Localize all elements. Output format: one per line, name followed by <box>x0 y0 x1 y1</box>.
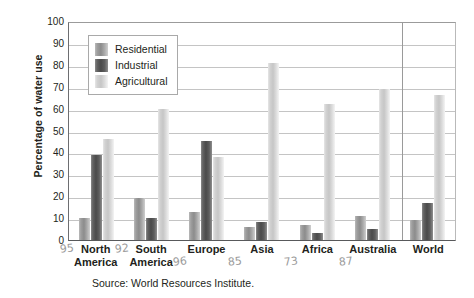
x-label-line: World <box>401 243 456 256</box>
legend-item-industrial: Industrial <box>95 57 168 73</box>
bar-top-cap <box>434 95 445 97</box>
bar-top-cap <box>79 218 90 220</box>
bar-north-america-industrial <box>91 155 102 240</box>
bar-group-europe <box>179 23 234 240</box>
x-label-line: Australia <box>345 243 400 256</box>
y-tick-30: 30 <box>38 170 64 180</box>
bar-group-asia <box>234 23 289 240</box>
legend-swatch-industrial <box>95 59 108 72</box>
bar-top-cap <box>324 104 335 106</box>
bar-top-cap <box>312 233 323 235</box>
bar-asia-industrial <box>256 222 267 240</box>
bar-australia-industrial <box>367 229 378 240</box>
bar-africa-industrial <box>312 233 323 240</box>
bar-top-cap <box>103 139 114 141</box>
x-label-line: Europe <box>179 243 234 256</box>
bar-asia-residential <box>244 227 255 240</box>
bar-top-cap <box>256 222 267 224</box>
legend-label-agricultural: Agricultural <box>115 75 168 88</box>
x-label-asia: Asia85 <box>234 243 289 268</box>
y-tick-70: 70 <box>38 83 64 93</box>
bar-top-cap <box>134 198 145 200</box>
bar-top-cap <box>244 227 255 229</box>
x-label-europe: Europe96 <box>179 243 234 268</box>
bar-north-america-residential <box>79 218 90 240</box>
legend-swatch-residential <box>95 43 108 56</box>
bar-south-america-agricultural <box>158 109 169 240</box>
x-label-australia: Australia87 <box>345 243 400 268</box>
bar-north-america-agricultural <box>103 139 114 240</box>
y-tick-80: 80 <box>38 61 64 71</box>
bar-south-america-residential <box>134 198 145 240</box>
bar-world-industrial <box>422 203 433 240</box>
bar-asia-agricultural <box>268 63 279 240</box>
x-label-line: America <box>123 256 178 269</box>
handwritten-annotation-europe: 96 <box>172 255 187 269</box>
bar-top-cap <box>300 225 311 227</box>
y-tick-10: 10 <box>38 214 64 224</box>
x-axis-category-labels: NorthAmerica95SouthAmerica92Europe96Asia… <box>68 243 456 268</box>
x-label-line: South <box>123 243 178 256</box>
y-tick-60: 60 <box>38 105 64 115</box>
bar-africa-agricultural <box>324 104 335 240</box>
bar-australia-residential <box>355 216 366 240</box>
handwritten-annotation-south-america: 92 <box>115 242 130 256</box>
legend-item-residential: Residential <box>95 41 168 57</box>
bar-top-cap <box>201 141 212 143</box>
handwritten-annotation-north-america: 95 <box>59 242 74 256</box>
x-label-world: World <box>401 243 456 268</box>
bar-top-cap <box>367 229 378 231</box>
bar-world-agricultural <box>434 95 445 240</box>
bar-europe-industrial <box>201 141 212 240</box>
y-axis-tick-labels: 1009080706050403020100 <box>36 22 64 241</box>
x-label-line: America <box>68 256 123 269</box>
legend-label-residential: Residential <box>115 43 167 56</box>
handwritten-annotation-australia: 87 <box>338 255 353 269</box>
bar-group-africa <box>290 23 345 240</box>
bar-africa-residential <box>300 225 311 240</box>
bar-top-cap <box>189 212 200 214</box>
y-tick-20: 20 <box>38 192 64 202</box>
bar-group-australia <box>345 23 400 240</box>
bar-europe-agricultural <box>213 157 224 240</box>
bar-world-residential <box>410 220 421 240</box>
x-label-south-america: SouthAmerica92 <box>123 243 178 268</box>
handwritten-annotation-africa: 73 <box>283 255 298 269</box>
x-label-line: Asia <box>234 243 289 256</box>
bar-top-cap <box>158 109 169 111</box>
bar-top-cap <box>91 155 102 157</box>
x-label-africa: Africa73 <box>290 243 345 268</box>
bar-top-cap <box>379 89 390 91</box>
bar-top-cap <box>146 218 157 220</box>
y-tick-100: 100 <box>38 17 64 27</box>
bar-top-cap <box>410 220 421 222</box>
bar-top-cap <box>213 157 224 159</box>
chart-figure: Percentage of water use 1009080706050403… <box>0 0 474 298</box>
bar-australia-agricultural <box>379 89 390 240</box>
source-caption: Source: World Resources Institute. <box>92 277 254 289</box>
handwritten-annotation-asia: 85 <box>228 255 243 269</box>
y-tick-90: 90 <box>38 39 64 49</box>
bar-top-cap <box>355 216 366 218</box>
legend-swatch-agricultural <box>95 75 108 88</box>
legend-item-agricultural: Agricultural <box>95 73 168 89</box>
bar-south-america-industrial <box>146 218 157 240</box>
x-label-line: Africa <box>290 243 345 256</box>
bar-top-cap <box>422 203 433 205</box>
y-tick-40: 40 <box>38 148 64 158</box>
bar-europe-residential <box>189 212 200 240</box>
bar-group-world <box>400 23 455 240</box>
y-tick-50: 50 <box>38 127 64 137</box>
legend-label-industrial: Industrial <box>115 59 158 72</box>
bar-top-cap <box>268 63 279 65</box>
legend: ResidentialIndustrialAgricultural <box>88 35 178 95</box>
